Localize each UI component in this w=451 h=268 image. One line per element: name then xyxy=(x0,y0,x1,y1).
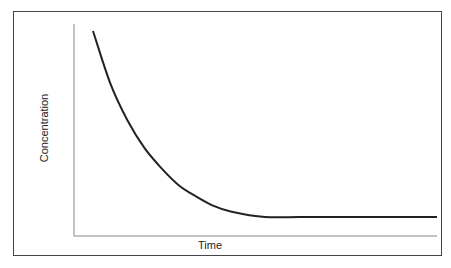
decay-curve xyxy=(93,31,437,217)
y-axis-label: Concentration xyxy=(38,94,50,163)
chart-plot xyxy=(0,0,451,268)
x-axis-label: Time xyxy=(180,239,240,251)
